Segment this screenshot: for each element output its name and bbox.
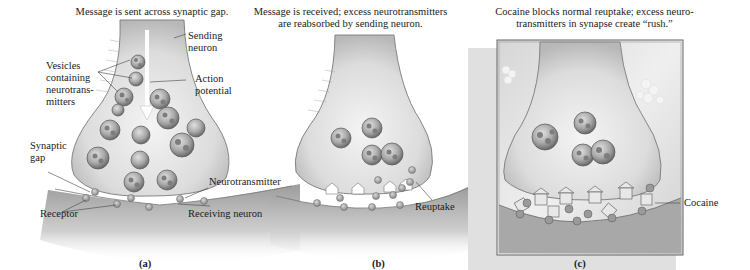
panel-letter-c: (c) bbox=[574, 258, 586, 269]
label-line: potential bbox=[195, 85, 232, 97]
label-line: containing bbox=[46, 72, 94, 84]
label-line: neurotrans- bbox=[46, 84, 94, 96]
caption-c: Cocaine blocks normal reuptake; excess n… bbox=[482, 6, 707, 30]
label-line: Action bbox=[195, 73, 232, 85]
label-sending-neuron: Sending neuron bbox=[188, 30, 222, 54]
caption-c-line-1: Cocaine blocks normal reuptake; excess n… bbox=[482, 6, 707, 18]
label-line: Sending bbox=[188, 30, 222, 42]
panel-a-art bbox=[40, 20, 300, 263]
label-line: Synaptic bbox=[30, 140, 67, 152]
caption-b-line-2: are reabsorbed by sending neuron. bbox=[243, 18, 458, 30]
label-receptor: Receptor bbox=[40, 208, 78, 220]
label-receiving-neuron: Receiving neuron bbox=[188, 208, 262, 220]
label-vesicles: Vesicles containing neurotrans- mitters bbox=[46, 60, 94, 108]
label-synaptic-gap: Synaptic gap bbox=[30, 140, 67, 164]
label-action-potential: Action potential bbox=[195, 73, 232, 97]
caption-a: Message is sent across synaptic gap. bbox=[57, 6, 247, 18]
caption-b-line-1: Message is received; excess neurotransmi… bbox=[243, 6, 458, 18]
label-reuptake: Reuptake bbox=[415, 201, 455, 213]
label-cocaine: Cocaine bbox=[684, 197, 718, 209]
synapse-illustration bbox=[0, 0, 750, 270]
caption-a-line-1: Message is sent across synaptic gap. bbox=[57, 6, 247, 18]
label-line: mitters bbox=[46, 96, 94, 108]
panel-c-art bbox=[468, 40, 683, 270]
caption-b: Message is received; excess neurotransmi… bbox=[243, 6, 458, 30]
panel-letter-a: (a) bbox=[139, 258, 151, 269]
label-line: neuron bbox=[188, 42, 222, 54]
label-line: Vesicles bbox=[46, 60, 94, 72]
caption-c-line-2: transmitters in synapse create “rush.” bbox=[482, 18, 707, 30]
label-line: gap bbox=[30, 152, 67, 164]
label-neurotransmitter: Neurotransmitter bbox=[209, 176, 281, 188]
panel-letter-b: (b) bbox=[372, 258, 385, 269]
panel-b-art bbox=[270, 35, 470, 261]
